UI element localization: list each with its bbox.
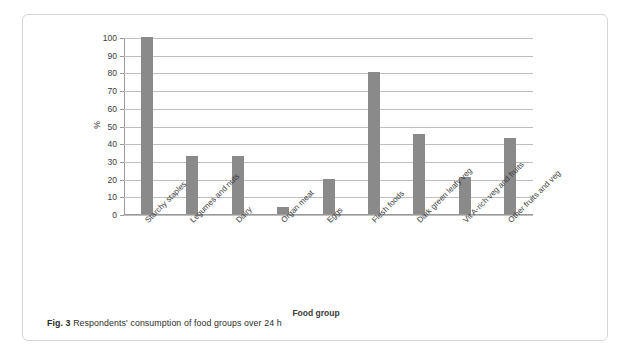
y-axis-tick-label: 90: [108, 51, 117, 60]
bar: [368, 72, 380, 214]
y-axis-tick-label: 20: [108, 175, 117, 184]
y-axis-tick-mark: [120, 91, 124, 92]
figure-caption-label: Fig. 3: [47, 318, 71, 328]
gridline: [124, 91, 533, 92]
gridline: [124, 73, 533, 74]
y-axis-tick-label: 50: [108, 122, 117, 131]
gridline: [124, 109, 533, 110]
y-axis-title: %: [92, 121, 102, 129]
gridline: [124, 127, 533, 128]
figure-caption: Fig. 3 Respondents' consumption of food …: [47, 318, 282, 328]
y-axis-tick-mark: [120, 197, 124, 198]
y-axis-tick-mark: [120, 73, 124, 74]
y-axis-tick-label: 10: [108, 193, 117, 202]
y-axis-tick-label: 80: [108, 69, 117, 78]
y-axis-tick-label: 70: [108, 87, 117, 96]
y-axis-tick-mark: [120, 144, 124, 145]
bar: [323, 179, 335, 214]
bar: [413, 134, 425, 214]
x-axis-title: Food group: [23, 308, 609, 318]
y-axis-tick-mark: [120, 127, 124, 128]
y-axis-tick-label: 60: [108, 105, 117, 114]
y-axis-tick-mark: [120, 109, 124, 110]
y-axis-tick-label: 40: [108, 140, 117, 149]
gridline: [124, 38, 533, 39]
gridline: [124, 56, 533, 57]
figure-caption-text: Respondents' consumption of food groups …: [73, 318, 282, 328]
y-axis-tick-label: 30: [108, 158, 117, 167]
y-axis-tick-mark: [120, 180, 124, 181]
y-axis-tick-label: 100: [103, 34, 117, 43]
y-axis-tick-mark: [120, 38, 124, 39]
gridline: [124, 144, 533, 145]
figure-container: % 0102030405060708090100 Starchy staples…: [22, 14, 608, 341]
y-axis-tick-mark: [120, 56, 124, 57]
y-axis-tick-mark: [120, 215, 124, 216]
y-axis-tick-mark: [120, 162, 124, 163]
bar: [141, 37, 153, 214]
chart-canvas: % 0102030405060708090100 Starchy staples…: [23, 15, 609, 305]
y-axis-tick-label: 0: [112, 211, 117, 220]
